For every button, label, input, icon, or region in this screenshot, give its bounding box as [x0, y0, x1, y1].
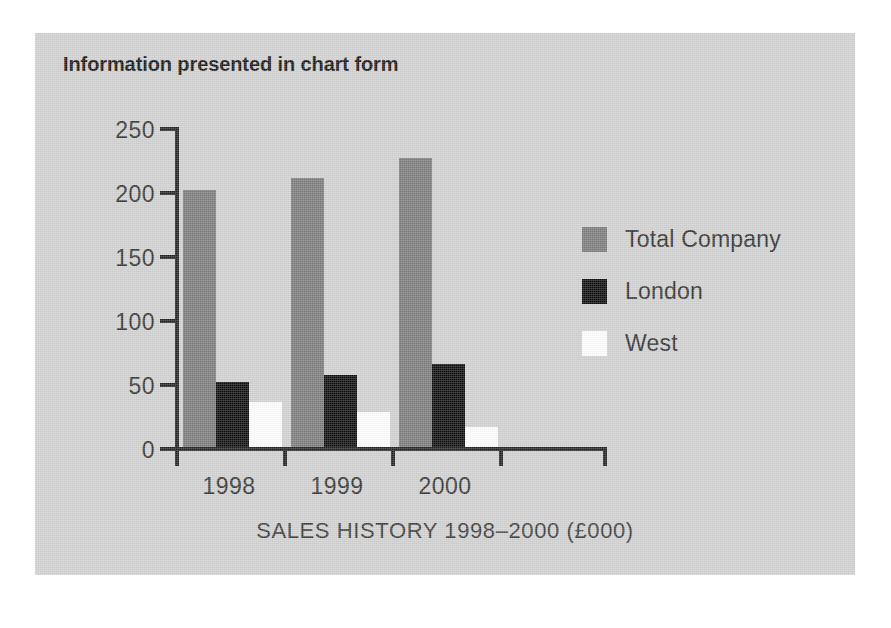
legend-label-london: London [625, 278, 703, 305]
bar-1998-london [216, 382, 249, 447]
x-tick-mark-end [603, 451, 607, 466]
legend-item-total-company: Total Company [582, 213, 781, 265]
bar-1999-london [324, 375, 357, 447]
y-tick-label-0: 0 [95, 437, 155, 464]
bar-1998-total-company [183, 190, 216, 447]
chart-legend: Total Company London West [582, 213, 781, 369]
x-tick-label-1998: 1998 [174, 473, 284, 500]
y-tick-mark-0 [160, 447, 176, 451]
y-tick-label-100: 100 [95, 309, 155, 336]
bar-1999-total-company [291, 178, 324, 447]
bar-1999-west [357, 412, 390, 447]
y-tick-mark-100 [160, 319, 176, 323]
y-tick-mark-150 [160, 255, 176, 259]
bar-2000-london [432, 364, 465, 447]
legend-label-west: West [625, 330, 678, 357]
y-tick-label-50: 50 [95, 373, 155, 400]
y-tick-mark-250 [160, 127, 176, 131]
y-tick-label-250: 250 [95, 117, 155, 144]
x-tick-label-2000: 2000 [390, 473, 500, 500]
legend-item-london: London [582, 265, 781, 317]
chart-caption: SALES HISTORY 1998–2000 (£000) [35, 518, 855, 544]
bar-1998-west [249, 402, 282, 447]
y-tick-label-150: 150 [95, 245, 155, 272]
y-axis-line [175, 127, 179, 451]
x-tick-label-1999: 1999 [282, 473, 392, 500]
legend-swatch-london-icon [582, 279, 607, 304]
legend-item-west: West [582, 317, 781, 369]
y-tick-mark-200 [160, 191, 176, 195]
chart-figure: Information presented in chart form 250 … [35, 33, 855, 575]
legend-swatch-total-company-icon [582, 227, 607, 252]
x-tick-mark-start [175, 451, 179, 466]
y-tick-mark-50 [160, 383, 176, 387]
bar-2000-west [465, 427, 498, 447]
plot-area: 250 200 150 100 50 0 1998 1999 2000 [35, 33, 855, 575]
x-tick-mark-1998-end [283, 451, 287, 466]
legend-label-total-company: Total Company [625, 226, 781, 253]
x-tick-mark-2000-end [499, 451, 503, 466]
x-tick-mark-1999-end [391, 451, 395, 466]
y-tick-label-200: 200 [95, 181, 155, 208]
legend-swatch-west-icon [582, 331, 607, 356]
bar-2000-total-company [399, 158, 432, 447]
